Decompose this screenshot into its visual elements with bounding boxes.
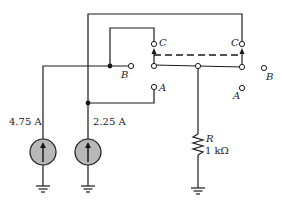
label-right-C: C — [231, 38, 239, 48]
terminal-left-A — [151, 84, 156, 89]
resistor-value: 1 kΩ — [205, 146, 229, 156]
circuit-schematic — [0, 0, 282, 205]
terminal-right-A — [239, 85, 244, 90]
wire-inner-loop — [110, 28, 154, 66]
current-source-2 — [75, 139, 101, 165]
arrow-right-switch-icon — [240, 48, 245, 54]
label-left-B: B — [121, 70, 128, 80]
terminal-left-C — [151, 41, 156, 46]
terminal-left-pivot — [151, 63, 156, 68]
junction-dot — [108, 64, 113, 69]
arrow-left-switch-icon — [152, 48, 157, 54]
terminal-right-pivot — [239, 64, 244, 69]
ground-icon — [191, 188, 205, 194]
label-left-C: C — [159, 38, 167, 48]
source-2-label: 2.25 A — [93, 117, 126, 127]
terminal-left-B — [128, 63, 133, 68]
label-right-A: A — [233, 91, 240, 101]
source-1-label: 4.75 A — [9, 117, 42, 127]
current-source-1 — [30, 139, 56, 165]
circuit-diagram: 4.75 A 2.25 A B C A C A B R 1 kΩ — [0, 0, 282, 205]
terminal-right-C — [239, 41, 244, 46]
label-right-B: B — [266, 72, 273, 82]
node-middle — [195, 63, 200, 68]
terminal-right-B — [261, 65, 266, 70]
resistor-R — [193, 134, 203, 155]
wire-source2 — [88, 90, 154, 139]
resistor-name: R — [206, 134, 214, 144]
ground-icon — [81, 186, 95, 192]
label-left-A: A — [159, 83, 166, 93]
ground-icon — [36, 186, 50, 192]
junction-dot — [86, 101, 91, 106]
